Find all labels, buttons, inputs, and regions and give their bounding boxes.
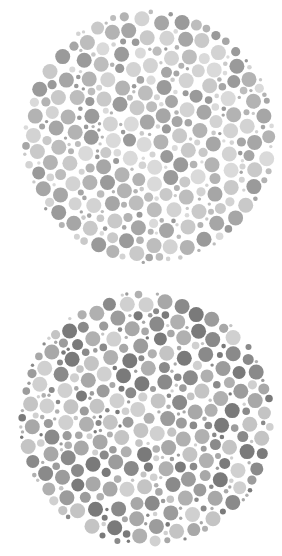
plate-dot <box>213 391 228 406</box>
plate-dot <box>197 105 212 120</box>
plate-dot <box>84 109 99 124</box>
plate-dot <box>191 20 202 31</box>
plate-dot <box>193 361 202 370</box>
plate-dot <box>76 390 87 401</box>
plate-dot <box>112 190 115 193</box>
plate-dot <box>44 447 59 462</box>
plate-dot <box>194 443 197 446</box>
plate-dot <box>137 479 152 494</box>
plate-dot <box>46 106 59 119</box>
plate-dot <box>61 110 76 125</box>
plate-dot <box>157 375 172 390</box>
plate-dot <box>192 204 207 219</box>
plate-dot <box>125 336 128 339</box>
plate-dot <box>101 332 104 335</box>
plate-dot <box>54 341 57 344</box>
plate-dot <box>209 399 212 402</box>
plate-dot <box>201 446 207 452</box>
plate-dot <box>137 76 145 84</box>
plate-dot <box>41 393 46 398</box>
plate-dot <box>210 173 221 184</box>
plate-dot <box>157 410 160 413</box>
plate-dot <box>252 112 255 115</box>
plate-dot <box>59 490 74 505</box>
plate-dot <box>103 116 118 131</box>
plate-dot <box>59 486 64 491</box>
plate-dot <box>198 347 213 362</box>
plate-dot <box>135 291 143 299</box>
plate-dot <box>239 177 245 183</box>
plate-dot <box>68 317 71 320</box>
plate-dot <box>131 497 144 510</box>
plate-dot <box>240 171 243 174</box>
plate-dot <box>140 115 155 130</box>
plate-dot <box>170 370 173 373</box>
plate-dot <box>205 332 220 347</box>
plate-dot <box>193 483 206 496</box>
plate-dot <box>134 311 143 320</box>
plate-dot <box>202 416 207 421</box>
plate-dot <box>70 90 85 105</box>
plate-dot <box>51 330 60 339</box>
plate-dot <box>164 47 167 50</box>
plate-dot <box>157 80 172 95</box>
plate-dot <box>21 439 36 454</box>
plate-dot <box>258 383 269 394</box>
plate-dot <box>84 130 99 145</box>
plate-dot <box>77 53 92 68</box>
plate-dot <box>111 42 116 47</box>
plate-dot <box>64 441 72 449</box>
plate-dot <box>170 389 173 392</box>
plate-dot <box>97 215 105 223</box>
plate-dot <box>127 95 133 101</box>
plate-dot <box>36 479 39 482</box>
plate-dot <box>242 417 257 432</box>
plate-dot <box>78 190 84 196</box>
plate-dot <box>147 160 162 175</box>
plate-dot <box>167 428 176 437</box>
plate-dot <box>88 397 91 400</box>
plate-dot <box>28 109 43 124</box>
plate-dot <box>148 349 157 358</box>
plate-dot <box>178 63 184 69</box>
plate-dot <box>228 210 243 225</box>
plate-dot <box>44 207 47 210</box>
plate-dot <box>123 530 131 538</box>
plate-dot <box>153 134 168 149</box>
plate-dot <box>74 84 79 89</box>
plate-dot <box>107 214 122 229</box>
plate-dot <box>107 232 118 243</box>
plate-dot <box>225 403 240 418</box>
plate-dot <box>62 156 77 171</box>
plate-dot <box>198 197 201 200</box>
plate-dot <box>213 242 216 245</box>
plate-dot <box>163 170 178 185</box>
plate-dot <box>162 311 170 319</box>
plate-dot <box>213 381 221 389</box>
plate-dot <box>101 210 104 213</box>
plate-dot <box>192 123 207 138</box>
plate-dot <box>222 147 237 162</box>
plate-dot <box>159 362 170 373</box>
plate-dot <box>91 22 104 35</box>
plate-dot <box>217 77 222 82</box>
plate-dot <box>32 473 37 478</box>
plate-dot <box>205 404 218 417</box>
plate-dot <box>200 160 203 163</box>
plate-dot <box>125 387 136 398</box>
plate-dot <box>149 10 154 15</box>
plate-dot <box>175 15 190 30</box>
plate-dot <box>164 537 170 543</box>
plate-dot <box>183 370 198 385</box>
plate-dot <box>142 261 145 264</box>
plate-dot <box>187 393 195 401</box>
plate-dot <box>205 96 213 104</box>
plate-dot <box>149 317 164 332</box>
plate-dot <box>224 377 235 388</box>
plate-dot <box>116 368 131 383</box>
plate-dot <box>237 137 246 146</box>
plate-dot <box>230 140 235 145</box>
plate-dot <box>147 177 162 192</box>
plate-dot <box>110 62 115 67</box>
plate-dot <box>222 440 237 455</box>
